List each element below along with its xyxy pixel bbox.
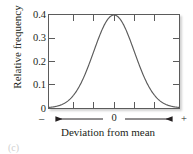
y-tick-label-0.1: 0.1: [24, 80, 46, 91]
y-axis-ticks: [49, 38, 55, 85]
y-tick-label-0.4: 0.4: [24, 10, 46, 21]
x-axis-label: Deviation from mean: [28, 126, 188, 138]
normal-distribution-figure: Relative frequency 0.4 0.3 0.2 0.1 0: [0, 0, 193, 154]
normal-curve: [49, 15, 179, 107]
y-tick-label-0.2: 0.2: [24, 57, 46, 68]
plot-area: [48, 14, 180, 109]
y-tick-label-0.3: 0.3: [24, 33, 46, 44]
plus-sign-label: +: [181, 114, 187, 125]
panel-caption: (c): [8, 142, 19, 153]
right-axis-ticks: [173, 38, 179, 85]
plot-svg: [49, 15, 179, 108]
x-axis-ticks: [73, 102, 154, 108]
zero-center-label: 0: [48, 113, 180, 124]
x-axis-annotation: – + 0: [48, 113, 180, 127]
top-axis-ticks: [73, 15, 154, 21]
minus-sign-label: –: [39, 114, 44, 125]
